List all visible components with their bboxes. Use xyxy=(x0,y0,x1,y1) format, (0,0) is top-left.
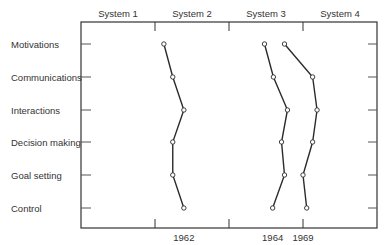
series-line xyxy=(285,44,318,208)
series-year-label: 1964 xyxy=(262,232,283,243)
data-point-marker xyxy=(162,42,166,46)
data-point-marker xyxy=(182,108,186,112)
category-label: Interactions xyxy=(11,105,60,116)
system-label: System 3 xyxy=(246,8,286,19)
data-point-marker xyxy=(270,206,274,210)
data-point-marker xyxy=(315,108,319,112)
data-point-marker xyxy=(171,75,175,79)
system-label: System 4 xyxy=(320,8,360,19)
data-point-marker xyxy=(279,140,283,144)
data-point-marker xyxy=(305,206,309,210)
data-point-marker xyxy=(171,140,175,144)
data-point-marker xyxy=(271,75,275,79)
data-point-marker xyxy=(262,42,266,46)
data-point-marker xyxy=(282,42,286,46)
series-year-label: 1962 xyxy=(173,232,194,243)
data-point-marker xyxy=(301,173,305,177)
data-point-marker xyxy=(310,140,314,144)
system-label: System 1 xyxy=(98,8,138,19)
data-point-marker xyxy=(285,108,289,112)
series-1962 xyxy=(162,42,186,210)
chart-frame xyxy=(81,22,377,228)
series-line xyxy=(265,44,288,208)
series-line xyxy=(164,44,184,208)
category-labels: MotivationsCommunicationsInteractionsDec… xyxy=(11,39,82,214)
system-labels: System 1System 2System 3System 4 xyxy=(98,8,360,19)
data-point-marker xyxy=(310,75,314,79)
series-1969 xyxy=(282,42,319,210)
profile-chart: System 1System 2System 3System 4 Motivat… xyxy=(0,0,386,245)
data-point-marker xyxy=(282,173,286,177)
category-label: Control xyxy=(11,203,42,214)
data-point-marker xyxy=(171,173,175,177)
category-label: Decision making xyxy=(11,137,81,148)
data-point-marker xyxy=(182,206,186,210)
series-year-label: 1969 xyxy=(292,232,313,243)
category-label: Communications xyxy=(11,72,82,83)
series-labels: 196219641969 xyxy=(173,232,313,243)
system-label: System 2 xyxy=(172,8,212,19)
series-lines xyxy=(162,42,320,210)
category-label: Goal setting xyxy=(11,170,62,181)
axis-ticks xyxy=(81,22,377,228)
category-label: Motivations xyxy=(11,39,59,50)
series-1964 xyxy=(262,42,289,210)
